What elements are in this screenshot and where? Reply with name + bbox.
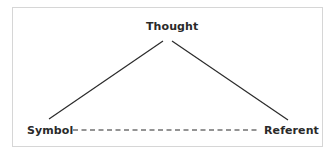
node-referent: Referent	[264, 124, 319, 137]
node-thought: Thought	[146, 20, 198, 33]
edge-thought-referent	[172, 41, 288, 120]
edge-thought-symbol	[49, 41, 163, 119]
node-symbol: Symbol	[27, 124, 73, 137]
